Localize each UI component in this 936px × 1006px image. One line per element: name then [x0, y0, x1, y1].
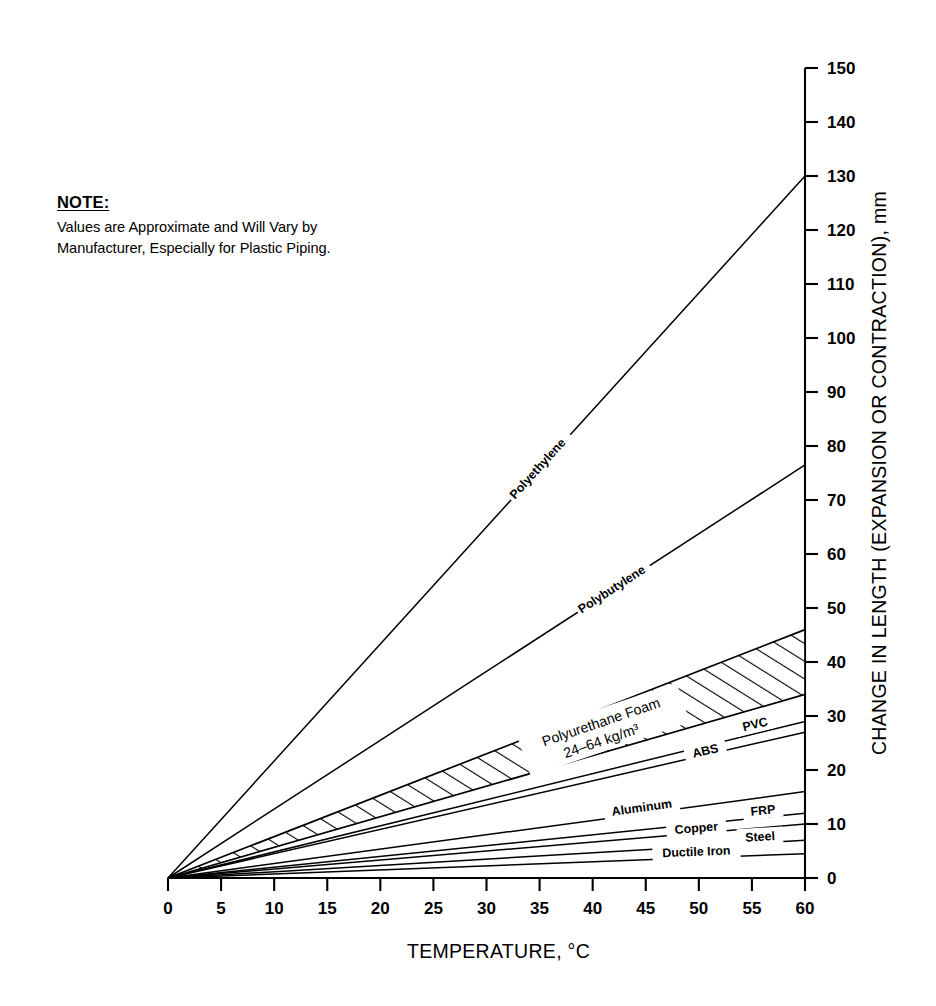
y-tick-label-20: 20 — [827, 761, 846, 780]
x-tick-label-15: 15 — [318, 899, 337, 918]
plot-area: 0510152025303540455055600102030405060708… — [163, 59, 890, 962]
x-tick-label-50: 50 — [689, 899, 708, 918]
series-label-frp: FRP — [750, 802, 776, 818]
x-tick-label-40: 40 — [583, 899, 602, 918]
x-tick-label-25: 25 — [424, 899, 443, 918]
y-tick-label-0: 0 — [827, 869, 836, 888]
series-label-steel: Steel — [745, 829, 775, 845]
y-tick-label-90: 90 — [827, 383, 846, 402]
y-tick-label-30: 30 — [827, 707, 846, 726]
y-tick-label-140: 140 — [827, 113, 855, 132]
y-tick-label-60: 60 — [827, 545, 846, 564]
y-tick-label-130: 130 — [827, 167, 855, 186]
x-tick-label-20: 20 — [371, 899, 390, 918]
y-tick-label-80: 80 — [827, 437, 846, 456]
expansion-chart: 0510152025303540455055600102030405060708… — [0, 0, 936, 1006]
series-label-polyethylene: Polyethylene — [507, 436, 569, 502]
y-tick-label-40: 40 — [827, 653, 846, 672]
series-label-ductile-iron: Ductile Iron — [662, 844, 731, 861]
x-tick-label-5: 5 — [216, 899, 225, 918]
y-tick-label-150: 150 — [827, 59, 855, 78]
x-tick-label-10: 10 — [265, 899, 284, 918]
x-tick-label-35: 35 — [530, 899, 549, 918]
x-tick-label-55: 55 — [742, 899, 761, 918]
y-tick-label-10: 10 — [827, 815, 846, 834]
y-tick-label-100: 100 — [827, 329, 855, 348]
y-tick-label-50: 50 — [827, 599, 846, 618]
y-axis-title: CHANGE IN LENGTH (EXPANSION OR CONTRACTI… — [868, 191, 890, 755]
y-tick-label-110: 110 — [827, 275, 854, 294]
y-tick-label-70: 70 — [827, 491, 846, 510]
series-label-polybutylene: Polybutylene — [576, 563, 648, 617]
x-tick-label-30: 30 — [477, 899, 496, 918]
y-tick-label-120: 120 — [827, 221, 855, 240]
x-tick-label-45: 45 — [636, 899, 655, 918]
x-axis-title: TEMPERATURE, °C — [407, 940, 590, 962]
x-tick-label-0: 0 — [163, 899, 172, 918]
x-tick-label-60: 60 — [796, 899, 815, 918]
